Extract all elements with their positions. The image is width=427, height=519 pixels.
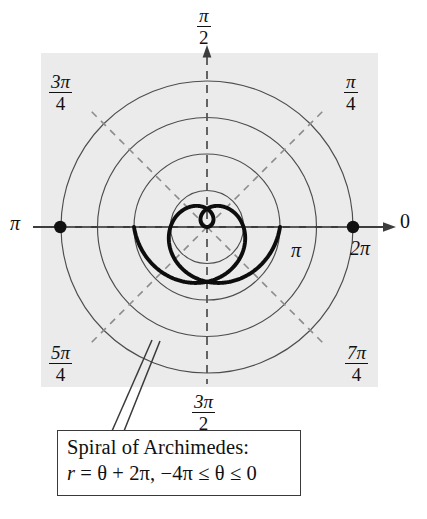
endpoint-dot-right — [347, 221, 359, 233]
axis-label-3pi-over-2: 3π 2 — [192, 392, 215, 433]
axis-label-pi-left: π — [10, 213, 20, 233]
axis-label-5pi-over-4: 5π 4 — [49, 343, 72, 384]
axis-label-pi-over-4: π 4 — [344, 72, 358, 113]
axis-label-7pi-over-4-numerator: 7π — [345, 343, 368, 364]
axis-label-pi-over-2-numerator: π — [197, 6, 211, 27]
radial-label-pi: π — [291, 240, 301, 260]
radial-label-2pi: 2π — [350, 238, 370, 258]
endpoint-dot-left — [54, 221, 66, 233]
axis-label-3pi-over-2-numerator: 3π — [192, 392, 215, 413]
axis-label-pi-over-4-denominator: 4 — [344, 93, 358, 113]
axis-label-3pi-over-4-numerator: 3π — [49, 72, 72, 93]
axis-label-3pi-over-4-denominator: 4 — [49, 93, 72, 113]
axis-horizontal-arrowhead — [383, 222, 396, 231]
caption-box: Spiral of Archimedes: r = θ + 2π, −4π ≤ … — [57, 430, 301, 496]
caption-equation: r = θ + 2π, −4π ≤ θ ≤ 0 — [67, 462, 292, 485]
axis-label-7pi-over-4: 7π 4 — [345, 343, 368, 384]
axis-label-3pi-over-4: 3π 4 — [49, 72, 72, 113]
caption-equation-r: r — [67, 462, 75, 484]
axis-label-5pi-over-4-numerator: 5π — [49, 343, 72, 364]
caption-equation-rest: = θ + 2π, −4π ≤ θ ≤ 0 — [75, 462, 257, 484]
axis-label-zero-right: 0 — [400, 211, 410, 231]
axis-label-pi-over-2-denominator: 2 — [197, 27, 211, 47]
figure-container: π 2 π 4 3π 4 5π 4 7π 4 3π 2 — [0, 0, 427, 519]
axis-label-5pi-over-4-denominator: 4 — [49, 364, 72, 384]
axis-label-7pi-over-4-denominator: 4 — [345, 364, 368, 384]
axis-label-pi-over-4-numerator: π — [344, 72, 358, 93]
axis-label-pi-over-2: π 2 — [197, 6, 211, 47]
caption-title: Spiral of Archimedes: — [67, 436, 292, 459]
